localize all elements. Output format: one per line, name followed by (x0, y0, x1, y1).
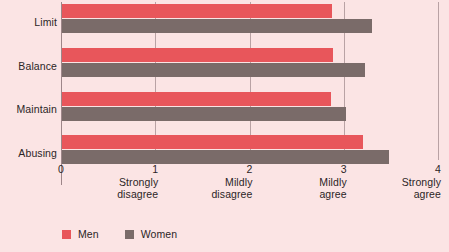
tick-caption-2-line2: disagree (161, 188, 253, 201)
tick-number-3: 3 (255, 163, 347, 176)
tick-4: 4Stronglyagree (349, 163, 441, 201)
tick-2: 2Mildlydisagree (161, 163, 253, 201)
legend-item-women[interactable]: Women (125, 228, 178, 240)
legend-swatch-women (125, 230, 134, 239)
tick-caption-4-line2: agree (349, 188, 441, 201)
legend-item-men[interactable]: Men (62, 228, 99, 240)
tick-caption-3-line1: Mildly (255, 176, 347, 189)
tick-number-2: 2 (161, 163, 253, 176)
category-label-balance: Balance (18, 60, 57, 72)
bar-chart: LimitBalanceMaintainAbusing 01Stronglydi… (0, 0, 449, 252)
tick-0: 0 (0, 163, 64, 176)
bar-balance-women (61, 63, 365, 77)
category-label-maintain: Maintain (17, 103, 58, 115)
tick-caption-3-line2: agree (255, 188, 347, 201)
tick-3: 3Mildlyagree (255, 163, 347, 201)
tick-number-0: 0 (0, 163, 64, 176)
legend-swatch-men (62, 230, 71, 239)
tick-number-1: 1 (66, 163, 158, 176)
chart-legend: MenWomen (62, 228, 177, 240)
bar-balance-men (61, 48, 333, 62)
bar-group-abusing (61, 135, 438, 164)
bar-maintain-women (61, 107, 346, 121)
tick-caption-1-line2: disagree (66, 188, 158, 201)
bar-maintain-men (61, 92, 331, 106)
bar-abusing-men (61, 135, 363, 149)
tick-1: 1Stronglydisagree (66, 163, 158, 201)
plot-area (61, 2, 438, 160)
tick-caption-2-line1: Mildly (161, 176, 253, 189)
bar-group-limit (61, 4, 438, 33)
bar-limit-women (61, 19, 372, 33)
bar-limit-men (61, 4, 332, 18)
bar-group-maintain (61, 92, 438, 121)
legend-label-women: Women (141, 228, 178, 240)
tick-caption-4-line1: Strongly (349, 176, 441, 189)
value-axis-line (61, 2, 62, 185)
category-label-limit: Limit (34, 16, 57, 28)
category-label-abusing: Abusing (18, 147, 57, 159)
tick-number-4: 4 (349, 163, 441, 176)
legend-label-men: Men (78, 228, 99, 240)
tick-caption-1-line1: Strongly (66, 176, 158, 189)
bar-abusing-women (61, 150, 389, 164)
gridline-4 (438, 2, 439, 160)
bar-group-balance (61, 48, 438, 77)
